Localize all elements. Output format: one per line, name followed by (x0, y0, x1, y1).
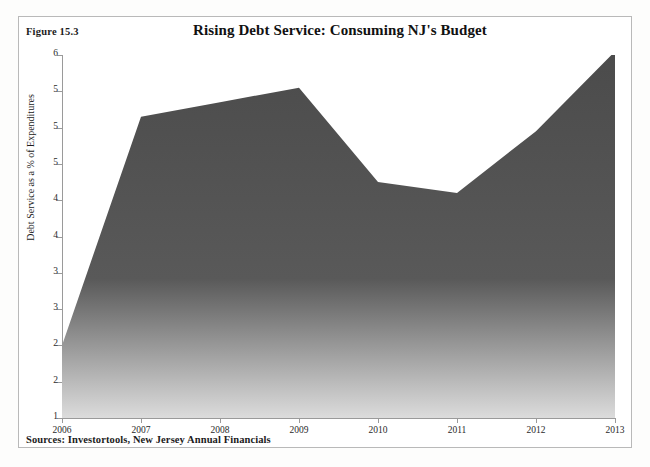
y-tick-label: 6 (53, 48, 58, 58)
y-tick-label: 5 (53, 157, 58, 167)
x-tick-label: 2011 (448, 425, 467, 435)
x-tick-mark (457, 419, 458, 423)
x-tick-mark (141, 419, 142, 423)
x-tick-label: 2010 (369, 425, 388, 435)
sources-note: Sources: Investortools, New Jersey Annua… (26, 434, 271, 445)
y-tick-label: 5 (53, 84, 58, 94)
x-tick-label: 2012 (527, 425, 546, 435)
y-tick-label: 2 (53, 375, 58, 385)
scanned-page: Figure 15.3 Rising Debt Service: Consumi… (0, 0, 650, 467)
x-tick-mark (536, 419, 537, 423)
area-series (62, 55, 615, 418)
x-tick-label: 2013 (606, 425, 625, 435)
y-tick-label: 4 (53, 193, 58, 203)
y-axis-title: Debt Service as a % of Expenditures (25, 68, 36, 268)
y-tick-label: 3 (53, 266, 58, 276)
chart-title: Rising Debt Service: Consuming NJ's Budg… (60, 22, 620, 39)
x-tick-mark (220, 419, 221, 423)
y-tick-label: 3 (53, 302, 58, 312)
x-tick-label: 2009 (290, 425, 309, 435)
plot-area: 65554433221 (62, 55, 615, 418)
y-tick-label: 4 (53, 230, 58, 240)
y-tick-label: 5 (53, 121, 58, 131)
x-tick-mark (62, 419, 63, 423)
x-tick-mark (615, 419, 616, 423)
area-fill (62, 55, 615, 418)
y-tick-label: 1 (53, 411, 58, 421)
x-tick-mark (378, 419, 379, 423)
x-tick-mark (299, 419, 300, 423)
y-tick-label: 2 (53, 338, 58, 348)
